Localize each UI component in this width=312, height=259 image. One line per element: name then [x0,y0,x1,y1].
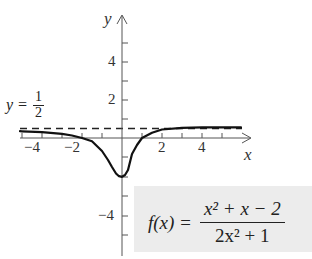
y-tick-label: 4 [108,54,116,69]
x-axis-label: x [244,146,252,163]
y-tick-label: 2 [108,92,116,107]
x-tick-label: 4 [198,140,206,155]
asymptote-numerator: 1 [33,90,44,106]
function-curve [20,127,241,176]
x-tick-label: −4 [24,140,40,155]
asymptote-label: y = 1 2 [6,90,44,120]
formula-numerator: x² + x − 2 [200,198,285,223]
formula-fraction: x² + x − 2 2x² + 1 [200,198,285,247]
asymptote-prefix: y = [6,96,28,114]
formula-denominator: 2x² + 1 [211,223,273,247]
formula-lhs: f(x) = [148,212,192,234]
function-formula: f(x) = x² + x − 2 2x² + 1 [148,198,285,247]
x-tick-label: −2 [64,140,80,155]
y-tick-label: −4 [98,208,114,223]
y-ticks [122,43,128,235]
asymptote-denominator: 2 [35,106,42,121]
asymptote-fraction: 1 2 [33,90,44,120]
y-axis-label: y [104,10,112,27]
x-tick-label: 2 [158,140,166,155]
